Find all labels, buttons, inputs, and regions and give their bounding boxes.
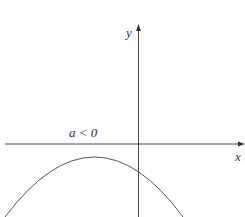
x-axis-arrow-icon	[238, 142, 245, 147]
parabola-curve	[5, 157, 183, 217]
parabola-diagram: y x a < 0	[0, 0, 245, 217]
y-axis-label: y	[126, 26, 132, 39]
x-axis-label: x	[235, 150, 241, 163]
condition-label: a < 0	[69, 126, 97, 139]
y-axis-arrow-icon	[136, 24, 141, 31]
diagram-canvas	[0, 0, 245, 217]
